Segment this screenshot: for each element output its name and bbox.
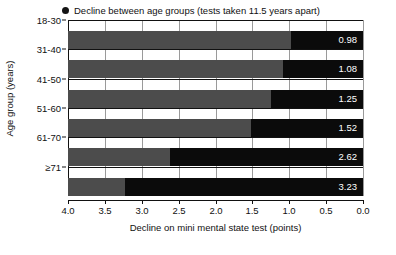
y-tick-mark — [62, 49, 66, 50]
bar-value-label: 1.52 — [339, 123, 358, 133]
x-tick-mark — [252, 200, 253, 204]
legend-marker-icon — [62, 7, 69, 14]
row-separator — [68, 108, 363, 109]
x-tick-mark — [326, 200, 327, 204]
y-axis-title: Age group (years) — [0, 0, 18, 196]
y-axis-ticks: 18-3031-4041-5051-6061-70≥71 — [18, 20, 66, 196]
x-tick-label: 3.0 — [135, 205, 148, 216]
x-tick-label: 1.5 — [245, 205, 258, 216]
y-tick-mark — [62, 167, 66, 168]
y-tick-mark — [62, 20, 66, 21]
row-separator — [68, 167, 363, 168]
x-axis-ticks: 4.03.53.02.52.01.51.00.50.0 — [68, 200, 363, 222]
gridline — [363, 20, 364, 196]
x-tick-label: 4.0 — [61, 205, 74, 216]
y-axis-title-text: Age group (years) — [4, 60, 15, 136]
y-tick-mark — [62, 137, 66, 138]
x-tick-label: 3.5 — [98, 205, 111, 216]
bar-row[interactable]: 1.25 — [68, 90, 363, 108]
y-tick-label: 51-60 — [37, 103, 61, 114]
bar-row[interactable]: 0.98 — [68, 31, 363, 49]
bar-decline-segment — [125, 178, 363, 196]
x-axis-title: Decline on mini mental state test (point… — [68, 222, 363, 233]
x-tick-label: 2.5 — [172, 205, 185, 216]
row-separator — [68, 79, 363, 80]
y-tick-label: ≥71 — [45, 162, 61, 173]
row-separator — [68, 137, 363, 138]
bar-row[interactable]: 3.23 — [68, 178, 363, 196]
y-tick-label: 41-50 — [37, 74, 61, 85]
y-tick-label: 18-30 — [37, 15, 61, 26]
bar-row[interactable]: 1.52 — [68, 119, 363, 137]
bar-value-label: 2.62 — [339, 152, 358, 162]
x-tick-label: 0.0 — [356, 205, 369, 216]
row-separator — [68, 20, 363, 21]
x-tick-mark — [179, 200, 180, 204]
bar-row[interactable]: 1.08 — [68, 60, 363, 78]
bar-row[interactable]: 2.62 — [68, 148, 363, 166]
bar-value-label: 0.98 — [339, 35, 358, 45]
plot-area: 0.981.081.251.522.623.23 — [68, 20, 363, 196]
y-tick-mark — [62, 108, 66, 109]
x-tick-mark — [363, 200, 364, 204]
bar-value-label: 1.08 — [339, 64, 358, 74]
chart-legend: Decline between age groups (tests taken … — [62, 2, 320, 18]
row-separator — [68, 49, 363, 50]
x-tick-label: 2.0 — [209, 205, 222, 216]
bar-decline-segment — [170, 148, 363, 166]
x-tick-mark — [142, 200, 143, 204]
y-tick-label: 61-70 — [37, 132, 61, 143]
y-tick-label: 31-40 — [37, 44, 61, 55]
y-tick-mark — [62, 79, 66, 80]
chart-container: Decline between age groups (tests taken … — [0, 0, 396, 255]
bar-value-label: 1.25 — [339, 94, 358, 104]
bar-value-label: 3.23 — [339, 182, 358, 192]
x-tick-mark — [105, 200, 106, 204]
x-tick-mark — [216, 200, 217, 204]
x-tick-mark — [289, 200, 290, 204]
x-tick-label: 1.0 — [282, 205, 295, 216]
x-tick-label: 0.5 — [319, 205, 332, 216]
legend-label: Decline between age groups (tests taken … — [74, 5, 320, 16]
x-tick-mark — [68, 200, 69, 204]
